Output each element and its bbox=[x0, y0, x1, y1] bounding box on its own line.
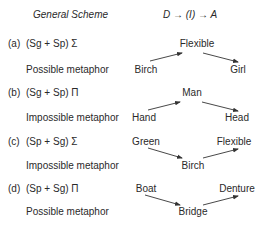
scheme-letter: (b) bbox=[8, 87, 20, 99]
node-middle: Birch bbox=[182, 160, 205, 172]
node-middle: Bridge bbox=[179, 206, 208, 218]
scheme-verdict: Possible metaphor bbox=[26, 206, 109, 218]
scheme-formula: (Sp + Sg) Π bbox=[26, 183, 79, 195]
scheme-formula: (Sp + Sg) Σ bbox=[26, 136, 77, 148]
scheme-letter: (c) bbox=[8, 136, 20, 148]
node-left: Green bbox=[132, 136, 160, 148]
scheme-formula: (Sg + Sp) Σ bbox=[26, 38, 77, 50]
scheme-verdict: Possible metaphor bbox=[26, 64, 109, 76]
node-left: Birch bbox=[135, 64, 158, 76]
scheme-letter: (a) bbox=[8, 38, 20, 50]
scheme-verdict: Impossible metaphor bbox=[26, 112, 119, 124]
node-left: Boat bbox=[136, 183, 157, 195]
arrow-icon bbox=[145, 195, 180, 205]
node-right: Flexible bbox=[217, 136, 251, 148]
scheme-verdict: Impossible metaphor bbox=[26, 160, 119, 172]
node-middle: Man bbox=[182, 87, 201, 99]
arrow-icon bbox=[203, 53, 238, 62]
general-scheme-formula: D → (I) → A bbox=[163, 9, 217, 21]
node-left: Hand bbox=[132, 112, 156, 124]
arrow-icon bbox=[150, 53, 182, 61]
arrow-icon bbox=[148, 148, 182, 158]
scheme-formula: (Sg + Sp) Π bbox=[26, 87, 79, 99]
arrow-icon bbox=[148, 102, 180, 110]
node-middle: Flexible bbox=[180, 38, 214, 50]
node-right: Head bbox=[225, 112, 249, 124]
node-right: Girl bbox=[230, 64, 246, 76]
arrow-icon bbox=[203, 149, 238, 158]
scheme-letter: (d) bbox=[8, 183, 20, 195]
arrow-icon bbox=[202, 102, 238, 111]
arrow-icon bbox=[203, 196, 238, 205]
node-right: Denture bbox=[219, 183, 255, 195]
general-scheme-title: General Scheme bbox=[33, 9, 108, 21]
